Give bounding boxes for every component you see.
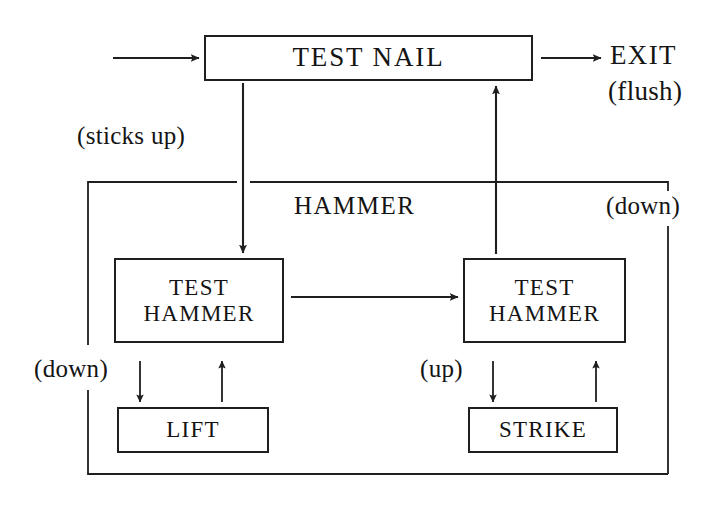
label-up: (up) — [420, 355, 463, 383]
node-test-nail[interactable]: TEST NAIL — [204, 35, 533, 81]
node-test-hammer-right-line2: HAMMER — [489, 301, 600, 326]
label-down-left: (down) — [34, 355, 108, 383]
node-test-hammer-left[interactable]: TEST HAMMER — [114, 258, 284, 343]
label-sticks-up: (sticks up) — [77, 122, 185, 150]
edge-right-rail-upper — [250, 182, 668, 191]
label-down-right: (down) — [606, 192, 680, 220]
label-exit-condition-flush: (flush) — [608, 76, 682, 106]
label-exit: EXIT — [610, 40, 677, 70]
node-lift[interactable]: LIFT — [117, 407, 269, 453]
node-test-hammer-right-line1: TEST — [515, 275, 575, 300]
node-test-nail-label: TEST NAIL — [292, 43, 444, 73]
flowchart-canvas: .wire { stroke: #1f1f1f; fill: none; } .… — [0, 0, 724, 510]
node-strike-label: STRIKE — [499, 417, 587, 442]
node-strike[interactable]: STRIKE — [468, 407, 618, 453]
node-test-hammer-left-line1: TEST — [169, 275, 229, 300]
node-lift-label: LIFT — [166, 417, 220, 442]
node-test-hammer-right[interactable]: TEST HAMMER — [463, 258, 626, 343]
label-hammer: HAMMER — [294, 192, 416, 220]
node-test-hammer-left-line2: HAMMER — [143, 301, 254, 326]
